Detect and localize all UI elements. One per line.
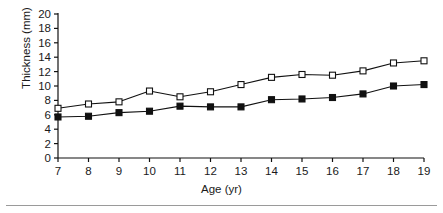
y-tick-label: 20 [38, 8, 51, 20]
y-tick-label: 16 [38, 37, 51, 49]
footer-divider [6, 205, 437, 206]
x-tick-label: 13 [235, 165, 248, 177]
data-point-marker [269, 97, 275, 103]
data-point-marker [391, 83, 397, 89]
x-tick-label: 17 [357, 165, 370, 177]
data-point-marker [177, 94, 183, 100]
y-tick-label: 12 [38, 66, 51, 78]
y-tick-label: 14 [38, 51, 51, 63]
data-point-marker [147, 88, 153, 94]
y-tick-label: 0 [45, 152, 51, 164]
x-tick-label: 12 [204, 165, 217, 177]
x-tick-label: 19 [418, 165, 431, 177]
data-point-marker [299, 71, 305, 77]
y-tick-label: 8 [45, 94, 51, 106]
data-point-marker [269, 74, 275, 80]
y-tick-label: 6 [45, 109, 51, 121]
x-axis-label: Age (yr) [0, 183, 443, 195]
x-tick-label: 7 [55, 165, 61, 177]
data-point-marker [147, 108, 153, 114]
data-point-marker [299, 96, 305, 102]
y-tick-label: 2 [45, 138, 51, 150]
y-tick-label: 4 [45, 123, 52, 135]
data-point-marker [55, 105, 61, 111]
x-tick-label: 15 [296, 165, 309, 177]
data-point-marker [421, 82, 427, 88]
data-point-marker [116, 99, 122, 105]
data-point-marker [360, 68, 366, 74]
x-tick-label: 10 [143, 165, 156, 177]
data-point-marker [238, 82, 244, 88]
data-point-marker [86, 113, 92, 119]
x-tick-label: 18 [387, 165, 400, 177]
x-tick-label: 11 [174, 165, 186, 177]
line-chart-plot-area: 0246810121416182078910111213141516171819 [0, 0, 443, 213]
data-point-marker [208, 89, 214, 95]
y-tick-label: 18 [38, 22, 51, 34]
x-tick-label: 14 [265, 165, 278, 177]
data-point-marker [55, 114, 61, 120]
data-point-marker [330, 72, 336, 78]
series-open-square-series [55, 58, 427, 112]
x-tick-label: 8 [85, 165, 91, 177]
data-point-marker [177, 103, 183, 109]
data-point-marker [116, 110, 122, 116]
data-point-marker [421, 58, 427, 64]
data-point-marker [330, 95, 336, 101]
x-tick-label: 9 [116, 165, 122, 177]
data-point-marker [208, 104, 214, 110]
data-point-marker [360, 91, 366, 97]
x-tick-label: 16 [326, 165, 339, 177]
series-line [58, 85, 424, 117]
data-point-marker [391, 60, 397, 66]
data-point-marker [86, 101, 92, 107]
chart-figure: Thickness (mm) 0246810121416182078910111… [0, 0, 443, 213]
y-tick-label: 10 [38, 80, 51, 92]
data-point-marker [238, 104, 244, 110]
